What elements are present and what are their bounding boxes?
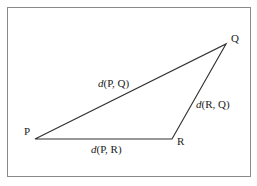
- edge-label-rq: d(R, Q): [196, 98, 230, 111]
- triangle-pqr: [35, 44, 226, 139]
- vertex-label-q: Q: [231, 32, 239, 44]
- vertex-label-r: R: [177, 135, 185, 147]
- vertex-label-p: P: [24, 125, 30, 137]
- edge-label-pq: d(P, Q): [98, 77, 130, 90]
- triangle-diagram: P Q R d(P, Q) d(R, Q) d(P, R): [0, 0, 257, 186]
- edge-label-pr: d(P, R): [91, 143, 122, 156]
